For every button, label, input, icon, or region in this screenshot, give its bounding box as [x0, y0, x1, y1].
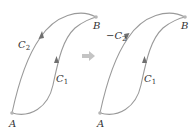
path-reversal-diagram: A B C2 C1 A B −C2 C1: [0, 0, 193, 133]
arrowhead-c1-icon: [142, 56, 147, 63]
label-c1: C1: [144, 73, 156, 86]
left-panel: A B C2 C1: [8, 13, 100, 129]
curve-neg-c2: [100, 13, 185, 113]
label-a: A: [96, 118, 104, 129]
arrowhead-c1-icon: [54, 56, 59, 63]
right-panel: A B −C2 C1: [96, 13, 188, 129]
right-arrow-icon: [82, 51, 95, 61]
label-c2: C2: [18, 39, 30, 52]
label-a: A: [8, 118, 16, 129]
curve-c2: [12, 13, 96, 113]
point-a: [98, 111, 102, 115]
label-c1: C1: [56, 73, 68, 86]
point-a: [10, 111, 14, 115]
label-b: B: [92, 20, 100, 31]
label-neg-c2: −C2: [106, 30, 127, 43]
arrowhead-c2-icon: [39, 31, 45, 39]
point-b: [183, 15, 187, 19]
label-b: B: [180, 20, 188, 31]
curve-c1: [12, 17, 96, 114]
point-b: [94, 15, 98, 19]
